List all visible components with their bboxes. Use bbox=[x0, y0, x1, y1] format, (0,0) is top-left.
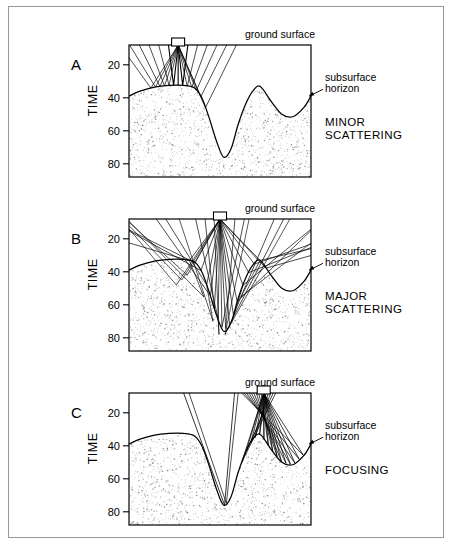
y-axis-title: TIME bbox=[86, 85, 100, 117]
arrow-head-icon bbox=[309, 266, 314, 270]
panel-caption-line1: MAJOR bbox=[325, 290, 367, 302]
arrow-head-icon bbox=[309, 92, 314, 96]
panel-caption-line1: MINOR bbox=[325, 116, 365, 128]
y-axis-tick-label: 40 bbox=[108, 266, 120, 278]
y-axis-tick-label: 80 bbox=[108, 506, 120, 518]
y-axis-tick-label: 80 bbox=[108, 158, 120, 170]
y-axis-tick-label: 20 bbox=[108, 233, 120, 245]
horizon-label-line2: horizon bbox=[325, 256, 360, 268]
y-axis-tick-label: 40 bbox=[108, 92, 120, 104]
panel-caption-line1: FOCUSING bbox=[325, 464, 389, 476]
ground-surface-label: ground surface bbox=[245, 28, 315, 40]
y-axis-title: TIME bbox=[86, 433, 100, 465]
panel-letter-c: C bbox=[71, 404, 82, 421]
ground-surface-label: ground surface bbox=[245, 376, 315, 388]
figure-outer-frame: 20406080TIMEAground surfacesubsurfacehor… bbox=[8, 6, 444, 538]
horizon-label-line2: horizon bbox=[325, 82, 360, 94]
y-axis-tick-label: 20 bbox=[108, 59, 120, 71]
y-axis-tick-label: 40 bbox=[108, 440, 120, 452]
panel-letter-b: B bbox=[71, 230, 81, 247]
panel-caption-line2: SCATTERING bbox=[325, 129, 402, 141]
panel-a-plot: 20406080TIMEAground surfacesubsurfacehor… bbox=[9, 19, 445, 195]
panel-b: 20406080TIMEBground surfacesubsurfacehor… bbox=[9, 193, 445, 369]
arrow-head-icon bbox=[309, 440, 314, 444]
source-rectangle-icon bbox=[214, 212, 227, 220]
y-axis-tick-label: 60 bbox=[108, 125, 120, 137]
y-axis-tick-label: 60 bbox=[108, 299, 120, 311]
y-axis-tick-label: 20 bbox=[108, 407, 120, 419]
panel-c-plot: 20406080TIMECground surfacesubsurfacehor… bbox=[9, 367, 445, 543]
ground-surface-label: ground surface bbox=[245, 202, 315, 214]
panel-c: 20406080TIMECground surfacesubsurfacehor… bbox=[9, 367, 445, 543]
panel-b-plot: 20406080TIMEBground surfacesubsurfacehor… bbox=[9, 193, 445, 369]
source-rectangle-icon bbox=[172, 38, 185, 46]
panel-caption-line2: SCATTERING bbox=[325, 303, 402, 315]
y-axis-title: TIME bbox=[86, 259, 100, 291]
subsurface-region bbox=[129, 85, 311, 177]
panel-letter-a: A bbox=[71, 56, 81, 73]
panel-a: 20406080TIMEAground surfacesubsurfacehor… bbox=[9, 19, 445, 195]
y-axis-tick-label: 80 bbox=[108, 332, 120, 344]
y-axis-tick-label: 60 bbox=[108, 473, 120, 485]
horizon-label-line2: horizon bbox=[325, 430, 360, 442]
